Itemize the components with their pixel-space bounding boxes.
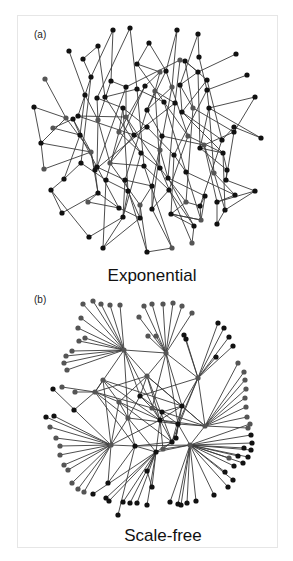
network-node <box>169 245 174 250</box>
network-node <box>88 74 93 79</box>
network-edge <box>110 135 134 163</box>
network-node <box>132 443 137 448</box>
network-node <box>157 69 162 74</box>
network-edge <box>149 43 166 71</box>
network-node <box>63 115 68 120</box>
network-edge <box>198 346 233 378</box>
network-edge <box>103 180 106 248</box>
network-edge <box>225 191 255 210</box>
exponential-network-edges <box>34 28 261 252</box>
network-node <box>90 491 95 496</box>
network-node <box>144 373 149 378</box>
network-node <box>142 83 147 88</box>
network-node <box>202 193 207 198</box>
panel-a-caption: Exponential <box>52 266 252 286</box>
panel-b-caption: Scale-free <box>63 526 263 546</box>
network-node <box>120 105 125 110</box>
network-node <box>160 446 165 451</box>
network-node <box>75 325 80 330</box>
network-node <box>131 132 136 137</box>
network-node <box>163 350 168 355</box>
network-node <box>100 245 105 250</box>
network-node <box>230 477 235 482</box>
network-node <box>242 395 247 400</box>
network-node <box>183 169 188 174</box>
network-node <box>123 84 128 89</box>
network-edge <box>198 378 205 426</box>
network-node <box>81 489 86 494</box>
network-node <box>247 421 252 426</box>
network-node <box>179 403 184 408</box>
network-node <box>195 69 200 74</box>
network-node <box>202 423 207 428</box>
network-edge <box>190 445 214 495</box>
network-node <box>90 298 95 303</box>
network-node <box>244 414 249 419</box>
network-node <box>244 72 249 77</box>
network-node <box>92 389 97 394</box>
network-edge <box>137 43 149 64</box>
network-edge <box>78 116 126 117</box>
network-node <box>153 333 158 338</box>
network-edge <box>125 180 152 186</box>
network-node <box>108 78 113 83</box>
network-node <box>242 377 247 382</box>
network-edge <box>44 152 91 169</box>
network-edge <box>147 248 172 252</box>
network-edge <box>164 102 188 136</box>
network-edge <box>60 445 111 446</box>
network-node <box>175 421 180 426</box>
network-node <box>116 205 121 210</box>
network-edge <box>198 323 218 378</box>
network-node <box>222 469 227 474</box>
network-node <box>144 468 149 473</box>
network-edge <box>180 34 198 85</box>
network-edge <box>118 446 135 515</box>
network-node <box>69 480 74 485</box>
network-edge <box>139 317 166 353</box>
network-node <box>195 375 200 380</box>
network-node <box>107 302 112 307</box>
network-node <box>82 335 87 340</box>
network-edge <box>135 446 156 452</box>
network-node <box>127 500 132 505</box>
network-edge <box>103 380 182 406</box>
network-node <box>78 315 83 320</box>
network-node <box>48 187 53 192</box>
network-node <box>72 389 77 394</box>
network-node <box>182 58 187 63</box>
network-node <box>178 502 183 507</box>
network-node <box>233 51 238 56</box>
network-edge <box>124 350 166 353</box>
network-node <box>204 87 209 92</box>
scale-free-network-nodes <box>43 298 254 517</box>
network-node <box>172 100 177 105</box>
network-node <box>185 133 190 138</box>
network-node <box>241 369 246 374</box>
network-node <box>248 432 253 437</box>
network-node <box>86 234 91 239</box>
network-node <box>235 453 240 458</box>
network-node <box>235 360 240 365</box>
network-node <box>193 498 198 503</box>
network-edge <box>209 108 214 173</box>
network-node <box>125 188 130 193</box>
network-node <box>157 147 162 152</box>
network-node <box>38 140 43 145</box>
network-node <box>241 445 246 450</box>
network-node <box>144 249 149 254</box>
network-node <box>206 105 211 110</box>
network-edge <box>111 30 113 81</box>
network-edge <box>97 120 98 167</box>
network-node <box>69 348 74 353</box>
network-node <box>252 188 257 193</box>
network-edge <box>137 64 160 72</box>
network-node <box>149 301 154 306</box>
network-edge <box>186 172 201 220</box>
network-node <box>108 442 113 447</box>
network-edge <box>180 85 182 112</box>
network-node <box>258 135 263 140</box>
network-node <box>184 500 189 505</box>
network-node <box>166 187 171 192</box>
network-node <box>183 336 188 341</box>
